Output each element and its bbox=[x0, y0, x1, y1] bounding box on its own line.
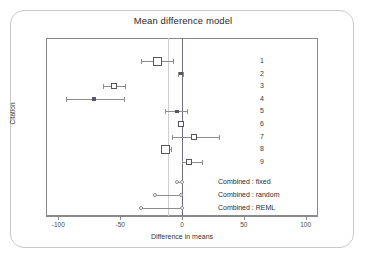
confidence-interval-cap bbox=[173, 59, 174, 64]
confidence-interval-cap bbox=[103, 84, 104, 89]
x-axis-tick-label: 0 bbox=[162, 221, 202, 228]
study-effect-marker bbox=[111, 83, 117, 89]
study-row-label: 1 bbox=[242, 57, 282, 64]
confidence-interval-line bbox=[141, 208, 182, 209]
y-axis-label: Citation bbox=[9, 84, 16, 144]
x-axis-tick bbox=[244, 216, 245, 220]
combined-interval-endpoint bbox=[153, 193, 157, 197]
confidence-interval-cap bbox=[187, 109, 188, 114]
combined-row-label: Combined : fixed bbox=[218, 178, 271, 185]
combined-interval-endpoint bbox=[180, 180, 184, 184]
confidence-interval-cap bbox=[202, 160, 203, 165]
combined-row-label: Combined : REML bbox=[218, 204, 275, 211]
confidence-interval-cap bbox=[165, 109, 166, 114]
study-effect-marker bbox=[186, 159, 192, 165]
confidence-interval-cap bbox=[125, 84, 126, 89]
combined-interval-endpoint bbox=[180, 206, 184, 210]
confidence-interval-cap bbox=[172, 135, 173, 140]
study-row-label: 5 bbox=[242, 107, 282, 114]
confidence-interval-cap bbox=[124, 97, 125, 102]
study-row-label: 4 bbox=[242, 95, 282, 102]
confidence-interval-cap bbox=[171, 147, 172, 152]
confidence-interval-cap bbox=[182, 160, 183, 165]
confidence-interval-cap bbox=[141, 59, 142, 64]
confidence-interval-cap bbox=[183, 72, 184, 77]
study-row-label: 6 bbox=[242, 120, 282, 127]
study-row-label: 9 bbox=[242, 158, 282, 165]
x-axis-tick bbox=[182, 216, 183, 220]
study-effect-marker bbox=[179, 72, 183, 76]
x-axis-tick bbox=[58, 216, 59, 220]
study-effect-marker bbox=[92, 97, 96, 101]
zero-reference-line bbox=[182, 38, 183, 216]
study-effect-marker bbox=[153, 57, 162, 66]
x-axis-tick-label: -100 bbox=[38, 221, 78, 228]
page-title: Mean difference model bbox=[0, 15, 366, 26]
figure-root: Mean difference model 123456789Combined … bbox=[0, 0, 366, 260]
x-axis-tick-label: -50 bbox=[100, 221, 140, 228]
study-effect-marker bbox=[175, 110, 179, 114]
study-row-label: 2 bbox=[242, 70, 282, 77]
study-row-label: 7 bbox=[242, 133, 282, 140]
x-axis-tick bbox=[306, 216, 307, 220]
confidence-interval-line bbox=[155, 195, 181, 196]
confidence-interval-cap bbox=[219, 135, 220, 140]
x-axis-label: Difference in means bbox=[46, 233, 318, 240]
study-effect-marker bbox=[161, 145, 170, 154]
combined-interval-endpoint bbox=[179, 193, 183, 197]
combined-row-label: Combined : random bbox=[218, 191, 279, 198]
forest-plot: Mean difference model 123456789Combined … bbox=[0, 0, 366, 260]
x-axis-tick bbox=[120, 216, 121, 220]
x-axis-tick-label: 50 bbox=[224, 221, 264, 228]
confidence-interval-cap bbox=[66, 97, 67, 102]
study-row-label: 3 bbox=[242, 82, 282, 89]
study-effect-marker bbox=[178, 121, 184, 127]
summary-reference-line bbox=[168, 38, 169, 216]
study-row-label: 8 bbox=[242, 145, 282, 152]
study-effect-marker bbox=[191, 134, 197, 140]
x-axis-tick-label: 100 bbox=[286, 221, 326, 228]
